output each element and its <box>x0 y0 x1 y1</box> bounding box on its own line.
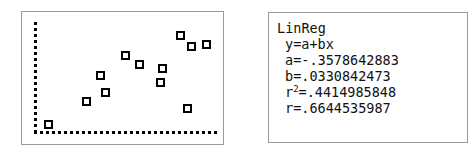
data-point <box>202 40 211 49</box>
linreg-coefficient-a: a=-.3578642883 <box>277 52 467 68</box>
linreg-r-value: r=.6644535987 <box>277 100 467 116</box>
linreg-title: LinReg <box>277 20 467 36</box>
data-point <box>183 104 192 113</box>
data-point <box>44 120 53 129</box>
data-point <box>101 88 110 97</box>
y-axis-dotted <box>34 22 37 134</box>
linreg-model-equation: y=a+bx <box>277 36 467 52</box>
x-axis-dotted <box>34 131 220 134</box>
data-point <box>82 97 91 106</box>
data-point <box>121 51 130 60</box>
r-squared-symbol: r <box>285 84 293 100</box>
r-squared-value: =.4414985848 <box>299 84 397 100</box>
linreg-r-squared: r2=.4414985848 <box>277 84 467 100</box>
data-point <box>187 42 196 51</box>
scatter-plot-panel <box>21 11 224 145</box>
data-point <box>96 71 105 80</box>
data-point <box>158 64 167 73</box>
data-point <box>156 78 165 87</box>
linreg-coefficient-b: b=.0330842473 <box>277 68 467 84</box>
data-point <box>176 31 185 40</box>
linreg-results-panel: LinReg y=a+bx a=-.3578642883 b=.03308424… <box>268 12 468 143</box>
data-point <box>135 60 144 69</box>
plot-area <box>22 12 223 144</box>
